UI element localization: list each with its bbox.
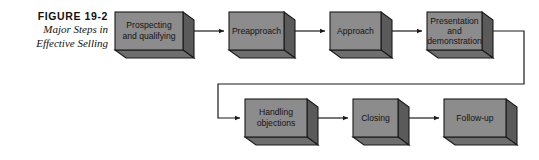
node-prospecting-bottom [115,50,194,58]
node-approach-label: Approach [337,26,374,36]
node-preapproach-label: Preapproach [232,26,281,36]
node-closing-label: Closing [361,113,390,123]
node-handling-label-1: Handling [259,107,293,117]
node-handling-objections[interactable]: Handling objections [245,99,318,145]
node-followup-label: Follow-up [456,113,493,123]
node-followup-bottom [444,137,517,145]
node-presentation-bottom [427,50,493,58]
figure-container: FIGURE 19-2 Major Steps in Effective Sel… [0,0,539,160]
node-presentation[interactable]: Presentation and demonstration [427,12,493,58]
node-closing[interactable]: Closing [353,99,409,145]
node-presentation-label-3: demonstration [427,36,482,46]
node-preapproach[interactable]: Preapproach [229,12,295,58]
node-prospecting-label-1: Prospecting [126,20,172,30]
node-followup[interactable]: Follow-up [444,99,517,145]
node-presentation-label-1: Presentation [430,16,478,26]
node-handling-bottom [245,137,318,145]
flowchart-diagram: Prospecting and qualifying Preapproach A… [0,0,539,160]
node-prospecting-label-2: and qualifying [122,31,175,41]
node-approach-bottom [330,50,392,58]
node-approach[interactable]: Approach [330,12,392,58]
node-prospecting[interactable]: Prospecting and qualifying [115,12,194,58]
node-presentation-label-2: and [447,26,462,36]
node-handling-label-2: objections [257,118,296,128]
node-preapproach-bottom [229,50,295,58]
